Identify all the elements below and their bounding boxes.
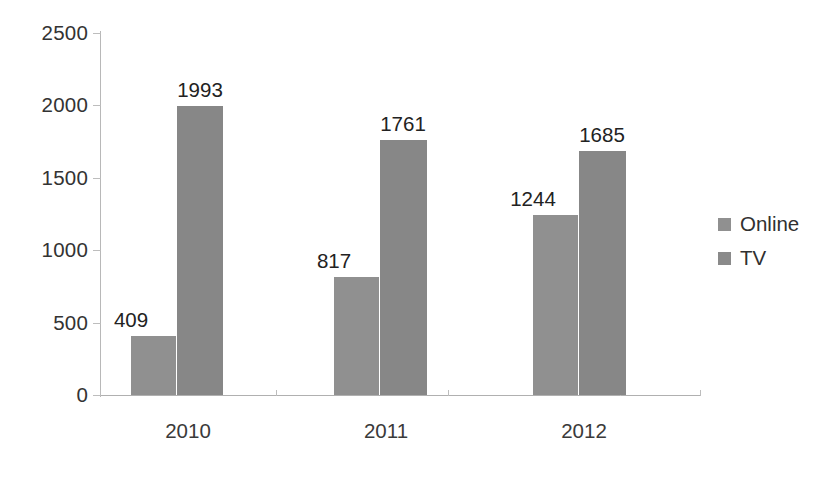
legend-item-online[interactable]: Online [718,207,799,241]
y-axis-tick-label-1500: 1500 [26,168,88,189]
y-axis-tick-label-0: 0 [26,385,88,406]
bar-chart: 2500 2000 1500 1000 500 0 409 1 [0,0,838,480]
data-label-2011-tv: 1761 [348,114,458,135]
chart-legend: Online TV [718,207,799,275]
legend-item-tv[interactable]: TV [718,241,799,275]
data-label-2011-online: 817 [279,251,389,272]
y-axis-tick-label-2000: 2000 [26,95,88,116]
data-label-2010-tv: 1993 [145,80,255,101]
data-label-2010-online: 409 [76,310,186,331]
x-axis-tick-label-2010: 2010 [128,421,248,442]
legend-label-online: Online [740,214,799,235]
y-axis-tick-label-1000: 1000 [26,240,88,261]
x-axis-divider [700,390,701,396]
data-label-2012-tv: 1685 [547,125,657,146]
legend-label-tv: TV [740,248,766,269]
bar-2010-online [131,336,176,395]
bar-2012-tv [579,151,626,395]
bar-2012-online [533,215,578,395]
legend-swatch-icon [718,218,731,231]
data-label-2012-online: 1244 [478,189,588,210]
legend-swatch-icon [718,252,731,265]
bar-2010-tv [177,106,223,395]
bar-2011-online [334,277,379,395]
y-axis-tick-label-2500: 2500 [26,23,88,44]
x-axis-tick-label-2011: 2011 [326,421,446,442]
x-axis-tick-label-2012: 2012 [524,421,644,442]
x-axis-line [100,395,701,396]
